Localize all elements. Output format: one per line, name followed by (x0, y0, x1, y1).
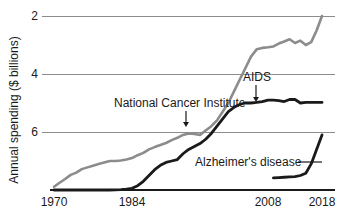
y-axis-label: Annual spending ($ billions) (7, 36, 21, 183)
x-tick-label: 1984 (119, 195, 146, 209)
y-tick-label: 2 (31, 9, 38, 23)
spending-line-chart: 246 1970198420082018 National Cancer Ins… (0, 0, 350, 217)
alzheimers-annotation-label: Alzheimer's disease (195, 155, 302, 169)
y-tick-label: 6 (31, 125, 38, 139)
chart-container: 246 1970198420082018 National Cancer Ins… (0, 0, 350, 217)
aids-annotation-label: AIDS (243, 70, 271, 84)
x-tick-label: 1970 (41, 195, 68, 209)
y-axis-title: Annual spending ($ billions) (7, 36, 21, 183)
y-tick-label: 4 (31, 67, 38, 81)
x-tick-label: 2018 (309, 195, 336, 209)
x-tick-label: 2008 (255, 195, 282, 209)
nci-annotation-label: National Cancer Institute (114, 96, 246, 110)
